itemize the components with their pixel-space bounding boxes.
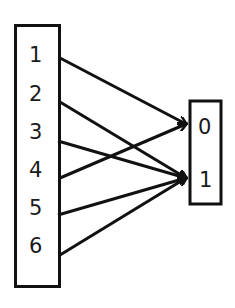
domain-label-6: 6: [29, 234, 42, 258]
arrow-6-to-1: [60, 178, 186, 255]
domain-label-1: 1: [29, 43, 42, 67]
domain-label-3: 3: [29, 120, 42, 144]
codomain-label-0: 0: [198, 115, 211, 139]
domain-label-4: 4: [29, 158, 42, 182]
arrow-4-to-0: [60, 124, 186, 178]
arrow-5-to-1: [58, 178, 186, 215]
mapping-diagram: 1 2 3 4 5 6 0 1: [0, 0, 235, 308]
codomain-label-1: 1: [199, 168, 212, 192]
domain-label-5: 5: [29, 196, 42, 220]
arrow-3-to-1: [58, 141, 186, 178]
domain-label-2: 2: [29, 82, 42, 106]
